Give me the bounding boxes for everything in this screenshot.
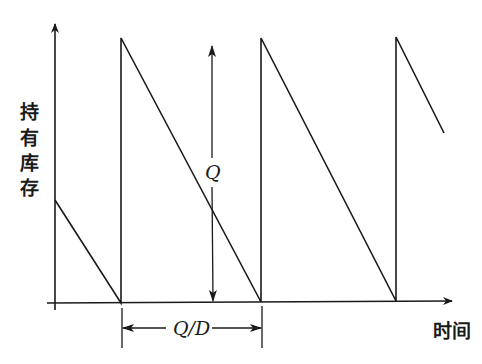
x-axis-label: 时间 (433, 319, 471, 343)
y-axis-label-char: 库 (17, 151, 41, 175)
inventory-sawtooth-diagram (0, 0, 482, 364)
y-axis-label-char: 有 (17, 126, 41, 150)
y-axis-label-char: 存 (17, 176, 41, 200)
q-dimension-arrow-down (212, 187, 213, 301)
x-axis (47, 301, 452, 303)
y-axis-label-char: 持 (17, 100, 41, 124)
order-quantity-label: Q (203, 161, 223, 183)
cycle-time-label: Q/D (171, 317, 212, 339)
inventory-level-line (55, 37, 444, 303)
